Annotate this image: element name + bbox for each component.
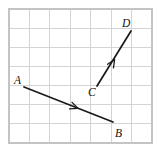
grid-border: [9, 9, 152, 143]
label-a: A: [13, 74, 22, 86]
vector-cd-line: [97, 31, 131, 86]
vector-figure: A B C D: [0, 0, 160, 153]
point-labels-group: A B C D: [13, 17, 131, 139]
label-b: B: [115, 127, 122, 139]
label-d: D: [121, 17, 131, 29]
label-c: C: [88, 86, 96, 98]
vector-diagram-canvas: A B C D: [0, 0, 160, 153]
vectors-group: [24, 31, 131, 122]
vector-cd: [97, 31, 131, 86]
grid-horizontal-lines: [9, 9, 152, 143]
grid-vertical-lines: [9, 9, 152, 143]
grid-group: [9, 9, 152, 143]
